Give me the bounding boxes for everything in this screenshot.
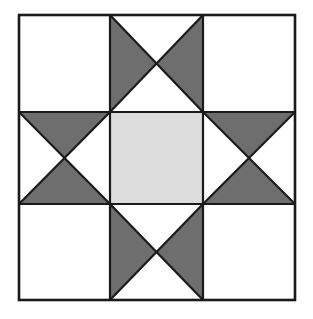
cell-bottom-right [203, 204, 295, 300]
cell-middle-center-patch [110, 112, 203, 204]
cell-top-right-patch [203, 15, 295, 112]
cell-middle-right [203, 112, 295, 204]
cell-bottom-right-patch [203, 204, 295, 300]
cell-bottom-left [19, 204, 110, 300]
cell-top-center [110, 15, 203, 112]
quilt-cell-group [19, 15, 295, 300]
cell-middle-left [19, 112, 110, 204]
cell-middle-center [110, 112, 203, 204]
cell-bottom-center [110, 204, 203, 300]
cell-top-left-patch [19, 15, 110, 112]
cell-bottom-left-patch [19, 204, 110, 300]
quilt-block-svg [0, 0, 313, 319]
cell-top-right [203, 15, 295, 112]
cell-top-left [19, 15, 110, 112]
quilt-block-figure [0, 0, 313, 319]
